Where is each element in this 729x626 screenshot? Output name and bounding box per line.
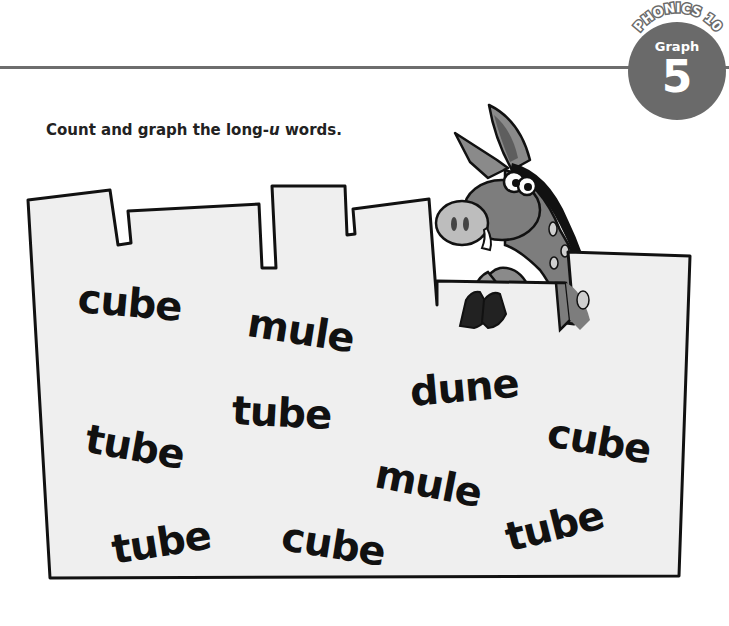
word-card: dune [408,363,520,412]
word-card: tube [231,390,332,435]
word-card: cube [76,278,183,327]
